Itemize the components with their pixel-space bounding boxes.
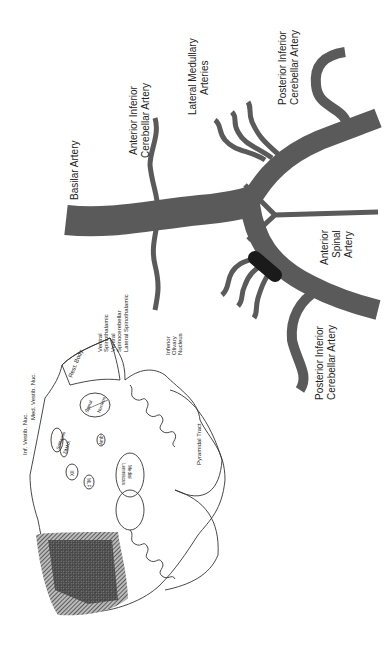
- label-lat-med-2: Arteries: [199, 61, 210, 95]
- label-med-vestib: Med. Vestib. Nuc.: [30, 373, 36, 420]
- label-dmnx: DMNX: [62, 440, 71, 454]
- medial-lemniscus-2: [116, 490, 144, 530]
- label-spinal-tract: Spinal: [84, 400, 93, 414]
- medulla-labels: Inf. Vestib. Nuc. Med. Vestib. Nuc. Rest…: [22, 294, 202, 487]
- label-pica-lower-1: Posterior Inferior: [314, 325, 325, 400]
- label-inf-vestib: Inf. Vestib. Nuc.: [22, 413, 28, 455]
- label-inf-olive-3: Nucleus: [177, 333, 183, 355]
- label-lat-med-1: Lateral Medullary: [187, 38, 198, 115]
- label-amb: Amb: [99, 435, 104, 445]
- spinal-trigeminal: [80, 393, 110, 417]
- inferior-olive-lower: [130, 530, 175, 579]
- inferior-olive-upper: [130, 385, 176, 447]
- label-medial-lemniscus-2: Lemniscus: [121, 463, 126, 486]
- lateral-medullary-artery-1: [215, 120, 265, 160]
- pica-upper-artery: [316, 52, 348, 128]
- label-anterior-spinal-1: Anterior: [319, 229, 330, 265]
- label-mlf: MLF: [86, 478, 91, 487]
- label-aica-1: Anterior Inferior: [128, 85, 139, 155]
- label-lateral-st: Lateral Spinothalamic: [123, 294, 129, 352]
- label-basilar: Basilar Artery: [69, 141, 80, 200]
- basilar-artery: [66, 200, 255, 221]
- label-pica-upper-1: Posterior Inferior: [277, 30, 288, 105]
- label-anterior-spinal-3: Artery: [343, 231, 354, 258]
- label-pica-lower-2: Cerebellar Artery: [326, 325, 337, 400]
- label-anterior-spinal-2: Spinal: [331, 230, 342, 258]
- label-medial-lemniscus-1: Medial: [127, 465, 132, 479]
- lateral-medullary-syndrome-diagram: Basilar Artery Anterior Inferior Cerebel…: [0, 0, 389, 647]
- vertebral-artery-upper: [250, 118, 378, 202]
- label-xii: XII: [70, 470, 75, 476]
- label-rest-body: Rest. Body: [67, 349, 84, 378]
- label-ventral-st-2: Spinothalamic: [103, 314, 109, 352]
- label-pyramidal: Pyramidal Tract: [196, 423, 202, 465]
- pyramid-right: [165, 490, 218, 590]
- label-ventral-sc-2: Spinocerebellar: [116, 310, 122, 352]
- label-aica-2: Cerebellar Artery: [140, 83, 151, 158]
- label-pica-upper-2: Cerebellar Artery: [289, 30, 300, 105]
